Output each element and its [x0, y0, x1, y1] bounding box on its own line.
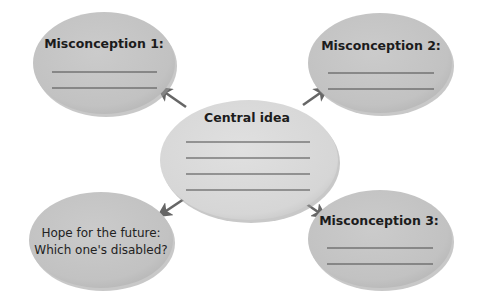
- node-misconception-3: Misconception 3:: [308, 190, 454, 291]
- node-title: Misconception 2:: [321, 38, 441, 53]
- node-bubble: [308, 190, 452, 288]
- arrow-to-misconception-1: [163, 91, 186, 107]
- concept-web-diagram: Misconception 1: Misconception 2: Hope f…: [0, 0, 478, 307]
- node-hope-for-future: Hope for the future: Which one's disable…: [29, 192, 175, 291]
- node-text-line: Which one's disabled?: [34, 243, 167, 257]
- node-misconception-1: Misconception 1:: [33, 12, 177, 117]
- node-bubble: [29, 192, 173, 288]
- node-title: Central idea: [204, 110, 290, 125]
- node-title: Misconception 1:: [44, 36, 164, 51]
- node-bubble: [33, 12, 175, 114]
- node-title: Misconception 3:: [319, 213, 439, 228]
- node-bubble: [308, 13, 452, 113]
- node-text-line: Hope for the future:: [41, 226, 160, 240]
- arrow-to-misconception-2: [303, 91, 323, 105]
- node-misconception-2: Misconception 2:: [308, 13, 454, 116]
- arrow-to-hope-for-future: [163, 199, 184, 213]
- node-central-idea: Central idea: [160, 100, 340, 223]
